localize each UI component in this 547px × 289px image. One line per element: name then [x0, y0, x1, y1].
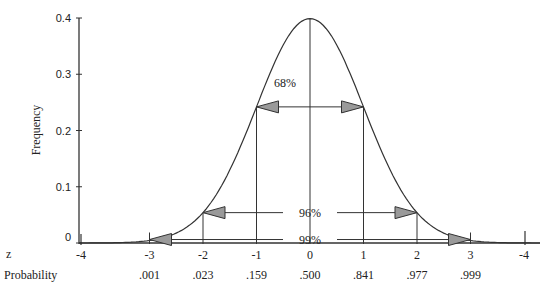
arrowhead-left: [257, 101, 279, 113]
y-tick-label: 0: [65, 231, 71, 243]
tick-labels: -4-3-2-10123-4.001.023.159.500.841.977.9…: [76, 248, 529, 282]
probability-row-label: Probability: [4, 268, 57, 282]
probability-label: .841: [353, 268, 374, 282]
arrowhead-left: [150, 234, 172, 246]
range-label: 68%: [274, 76, 296, 90]
range-arrow-96pct: 96%: [203, 206, 417, 220]
x-tick-label: -4: [519, 248, 529, 262]
probability-label: .500: [300, 268, 321, 282]
probability-label: .977: [407, 268, 428, 282]
range-arrow-99pct: 99%: [150, 233, 471, 247]
y-tick-label: 0.3: [56, 68, 71, 80]
y-tick-label: 0.1: [56, 181, 71, 193]
x-tick-label: 1: [361, 248, 367, 262]
arrowhead-right: [342, 101, 364, 113]
probability-label: .159: [246, 268, 267, 282]
range-label: 99%: [299, 233, 321, 247]
y-tick-label: 0.2: [56, 125, 71, 137]
z-row-label: z: [6, 247, 11, 261]
probability-label: .023: [193, 268, 214, 282]
x-tick-label: -1: [252, 248, 262, 262]
probability-label: .001: [139, 268, 160, 282]
x-tick-label: 0: [307, 248, 313, 262]
x-tick-label: -3: [145, 248, 155, 262]
axes: 00.10.20.30.4: [56, 12, 540, 245]
range-label: 96%: [299, 206, 321, 220]
x-tick-label: -4: [76, 248, 86, 262]
x-tick-label: -2: [198, 248, 208, 262]
normal-distribution-chart: 00.10.20.30.4 68%96%99% -4-3-2-10123-4.0…: [0, 0, 547, 289]
arrowhead-right: [449, 234, 471, 246]
x-tick-label: 3: [468, 248, 474, 262]
y-axis-label: Frequency: [29, 105, 43, 156]
y-tick-label: 0.4: [56, 12, 71, 24]
probability-label: .999: [460, 268, 481, 282]
x-tick-label: 2: [414, 248, 420, 262]
